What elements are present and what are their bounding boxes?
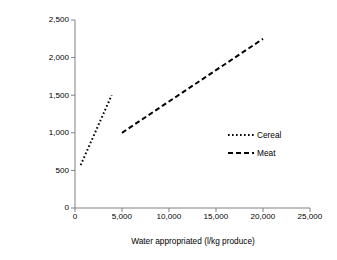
chart-figure: Equivalent energy density in produce (kc…: [0, 0, 337, 260]
legend-label-cereal: Cereal: [257, 131, 281, 140]
x-axis-title: Water appropriated (l/kg produce): [75, 236, 311, 246]
x-axis-ticks: [75, 208, 310, 212]
dashed-line-key: [228, 148, 254, 158]
series-line-meat: [122, 39, 263, 133]
y-axis-ticks: [71, 20, 75, 208]
legend-label-meat: Meat: [257, 149, 275, 158]
chart-legend: Cereal Meat: [228, 126, 314, 162]
legend-item-cereal: Cereal: [228, 126, 314, 144]
legend-item-meat: Meat: [228, 144, 314, 162]
dotted-line-key: [228, 130, 254, 140]
series-line-cereal: [81, 95, 112, 165]
